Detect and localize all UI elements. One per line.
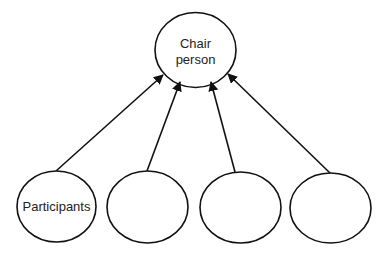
diagram-canvas: Chair person Participants bbox=[0, 0, 386, 258]
participant-node-3 bbox=[200, 172, 281, 243]
arrow-1 bbox=[56, 75, 163, 171]
participants-label: Participants bbox=[23, 199, 91, 214]
arrow-3 bbox=[211, 82, 235, 172]
chairperson-label-line2: person bbox=[176, 52, 216, 67]
arrow-2 bbox=[147, 82, 180, 171]
arrow-4 bbox=[228, 74, 330, 173]
chairperson-label-line1: Chair bbox=[180, 36, 212, 51]
participant-node-2 bbox=[107, 171, 188, 243]
participant-node-1: Participants bbox=[17, 171, 96, 242]
participant-node-4 bbox=[290, 173, 371, 243]
arrows bbox=[56, 74, 330, 173]
chairperson-node: Chair person bbox=[155, 13, 236, 88]
